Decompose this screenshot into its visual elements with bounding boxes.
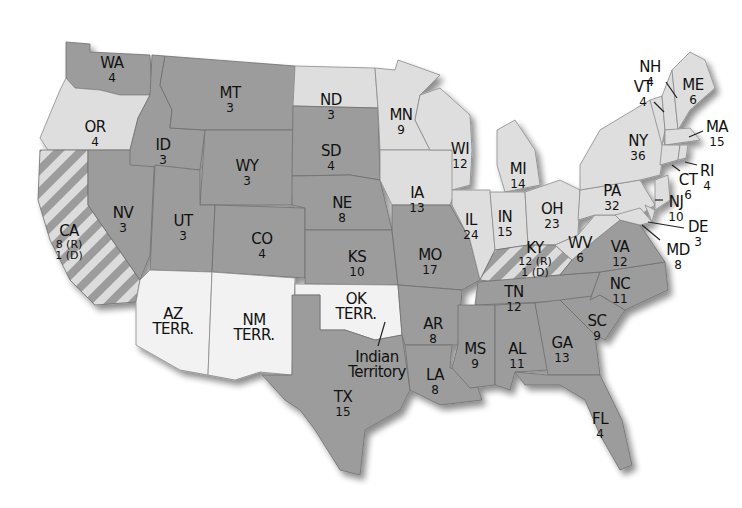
label-NC: NC11 — [610, 277, 631, 305]
label-VA: VA12 — [611, 240, 630, 268]
label-WI: WI12 — [451, 142, 469, 170]
label-IA: IA13 — [409, 186, 424, 214]
label-MN: MN9 — [389, 108, 412, 136]
label-RI: RI4 — [700, 164, 714, 192]
label-WY: WY3 — [236, 159, 259, 187]
label-MO: MO17 — [418, 248, 442, 276]
label-KY: KY12 (R)1 (D) — [518, 241, 552, 278]
label-TN: TN12 — [504, 285, 523, 313]
label-DE: DE3 — [688, 220, 708, 248]
label-AR: AR8 — [423, 317, 443, 345]
label-ID: ID3 — [156, 138, 171, 166]
leader-RI — [685, 162, 697, 165]
label-UT: UT3 — [173, 214, 192, 242]
label-AL: AL11 — [508, 342, 526, 370]
label-IN: IN15 — [497, 210, 512, 238]
label-SD: SD4 — [321, 144, 341, 172]
state-NY — [580, 100, 665, 190]
label-OH: OH23 — [541, 202, 563, 230]
label-NE: NE8 — [332, 196, 352, 224]
label-MA: MA15 — [706, 120, 728, 148]
label-OK: OKTERR. — [335, 292, 376, 322]
label-NY: NY36 — [628, 134, 647, 162]
label-CA: CA8 (R)1 (D) — [55, 224, 83, 261]
label-MI: MI14 — [510, 162, 526, 190]
label-MD: MD8 — [666, 243, 690, 271]
state-RI — [678, 145, 688, 160]
label-TX: TX15 — [334, 390, 352, 418]
label-CO: CO4 — [251, 232, 272, 260]
label-OR: OR4 — [84, 120, 105, 148]
label-NV: NV3 — [113, 206, 133, 234]
label-WA: WA4 — [100, 56, 123, 84]
state-FL — [515, 372, 632, 470]
state-MA — [665, 128, 700, 145]
label-MS: MS9 — [464, 342, 485, 370]
label-NH: NH4 — [639, 60, 661, 88]
label-ND: ND3 — [320, 93, 342, 121]
label-IL: IL24 — [463, 213, 478, 241]
label-MT: MT3 — [219, 86, 240, 114]
label-KS: KS10 — [348, 250, 366, 278]
label-AZ: AZTERR. — [152, 307, 193, 337]
label-WV: WV6 — [568, 236, 592, 264]
label-PA: PA32 — [603, 184, 620, 212]
label-GA: GA13 — [552, 336, 573, 364]
label-SC: SC9 — [588, 314, 607, 342]
label-indian-territory: IndianTerritory — [348, 350, 406, 380]
state-CT — [660, 145, 680, 165]
label-LA: LA8 — [426, 368, 444, 396]
label-NM: NMTERR. — [233, 313, 274, 343]
label-NJ: NJ10 — [668, 195, 683, 223]
label-FL: FL4 — [592, 412, 608, 440]
label-ME: ME6 — [682, 78, 703, 106]
